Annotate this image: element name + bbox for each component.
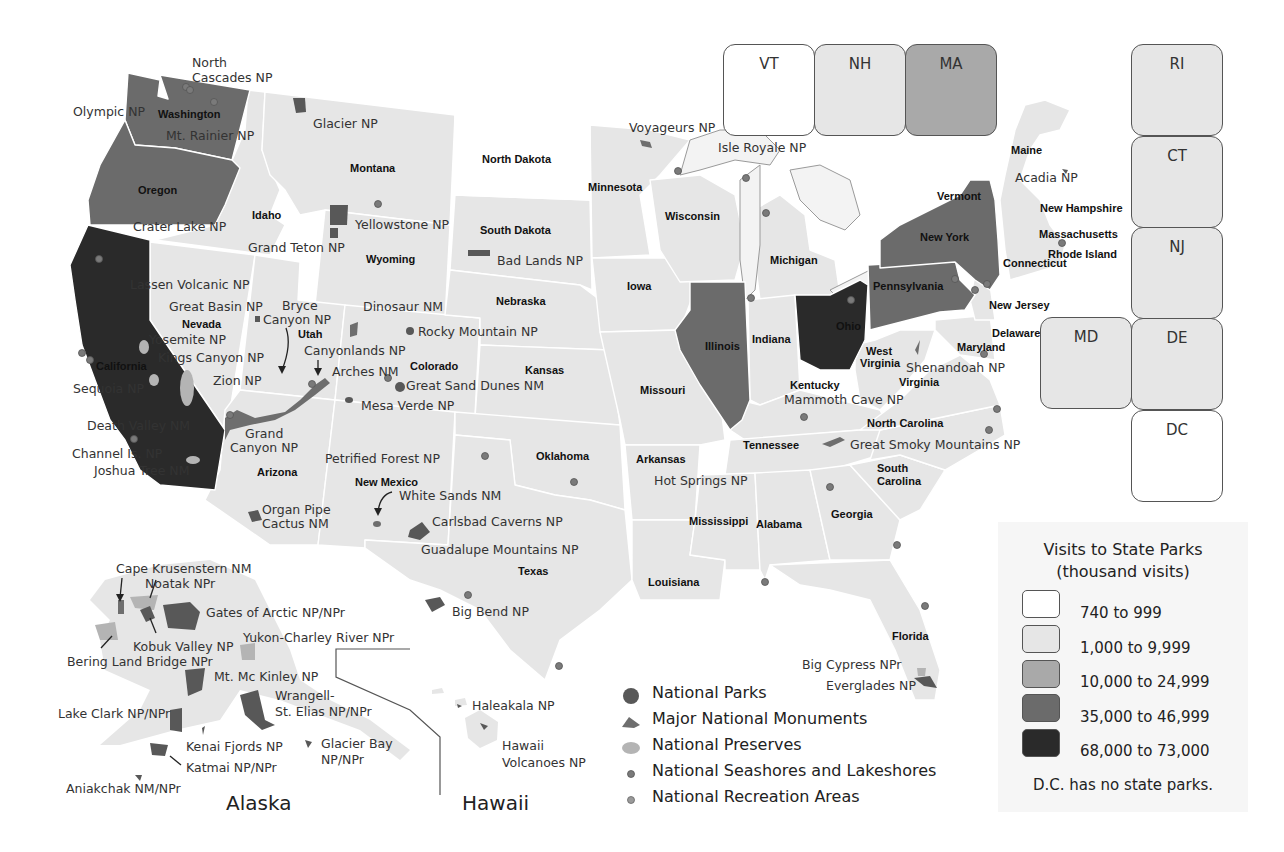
- park-label: Mesa Verde NP: [361, 398, 455, 413]
- state-label: Oklahoma: [536, 450, 590, 462]
- state-box-de: DE: [1131, 318, 1223, 410]
- park-label: Zion NP: [213, 373, 262, 388]
- legend-title: Visits to State Parks: [998, 540, 1248, 559]
- state-label: South: [877, 462, 908, 474]
- state-montana: [262, 92, 455, 225]
- state-label: Wisconsin: [665, 210, 720, 222]
- state-label: Indiana: [752, 333, 791, 345]
- state-label: North Carolina: [867, 417, 944, 429]
- park-label: Everglades NP: [826, 678, 916, 693]
- park-label: Canyonlands NP: [304, 343, 406, 358]
- park-label: White Sands NM: [399, 488, 501, 503]
- park-label: North: [192, 55, 227, 70]
- park-label: Sequoia NP: [73, 381, 145, 396]
- state-label: Pennsylvania: [873, 280, 944, 292]
- park-label: Death Valley NM: [87, 418, 190, 433]
- park-label: Lake Clark NP/NPr: [58, 706, 171, 721]
- feature-legend-label: National Parks: [652, 683, 767, 702]
- state-label: Colorado: [410, 360, 459, 372]
- park-label: Wrangell-: [275, 688, 335, 703]
- park-label: Shenandoah NP: [906, 360, 1006, 375]
- seashore-icon: [620, 765, 642, 783]
- legend-swatch-1: [1022, 625, 1060, 653]
- park-label: Channel Is. NP: [72, 446, 163, 461]
- state-label: Florida: [892, 630, 930, 642]
- state-label: Georgia: [831, 508, 873, 520]
- state-label: North Dakota: [482, 153, 552, 165]
- feature-legend-label: National Preserves: [652, 735, 802, 754]
- feature-legend-label: National Seashores and Lakeshores: [652, 761, 936, 780]
- state-box-ri: RI: [1131, 44, 1223, 136]
- park-label: Grand Teton NP: [248, 240, 345, 255]
- park-label: Voyageurs NP: [629, 120, 716, 135]
- park-label: Big Cypress NPr: [802, 657, 902, 672]
- legend-label: 10,000 to 24,999: [1080, 673, 1210, 691]
- state-box-nj: NJ: [1131, 227, 1223, 319]
- state-label: New York: [920, 231, 970, 243]
- state-label: Idaho: [252, 209, 282, 221]
- state-label: Virginia: [860, 357, 901, 369]
- region-label-hawaii: Hawaii: [462, 791, 529, 815]
- state-label: Kentucky: [790, 379, 840, 391]
- park-label: Aniakchak NM/NPr: [66, 781, 182, 796]
- park-label: Kings Canyon NP: [158, 350, 265, 365]
- park-label: Rocky Mountain NP: [418, 324, 538, 339]
- national-park-icon: [620, 687, 642, 705]
- state-label: Massachusetts: [1039, 228, 1118, 240]
- recreation-area-icon: [620, 791, 642, 809]
- park-label: Cape Krusenstern NM: [116, 561, 251, 576]
- state-label: Tennessee: [743, 439, 799, 451]
- state-label: Arkansas: [636, 453, 686, 465]
- park-label: Acadia NP: [1015, 170, 1078, 185]
- state-label: Minnesota: [588, 181, 643, 193]
- legend-label: 740 to 999: [1080, 604, 1162, 622]
- state-box-md: MD: [1040, 317, 1132, 409]
- park-label: Cascades NP: [192, 70, 273, 85]
- state-label: Missouri: [640, 384, 685, 396]
- state-box-nh: NH: [814, 44, 906, 136]
- state-label: Arizona: [257, 466, 298, 478]
- state-label: West: [866, 345, 892, 357]
- legend-swatch-3: [1022, 694, 1060, 722]
- park-label: Yosemite NP: [148, 332, 226, 347]
- state-label: Carolina: [877, 475, 922, 487]
- state-label: Texas: [518, 565, 548, 577]
- park-label: Grand: [245, 426, 283, 441]
- park-label: Yukon-Charley River NPr: [242, 630, 395, 645]
- park-label: Hot Springs NP: [654, 473, 748, 488]
- national-preserve-icon: [620, 739, 642, 757]
- park-label: Petrified Forest NP: [325, 451, 440, 466]
- park-label: Olympic NP: [73, 104, 145, 119]
- state-label: California: [96, 360, 148, 372]
- state-label: Louisiana: [648, 576, 700, 588]
- hawaii-islands: [432, 688, 498, 748]
- state-label: Maine: [1011, 144, 1042, 156]
- park-label: St. Elias NP/NPr: [275, 704, 373, 719]
- state-label: Wyoming: [366, 253, 415, 265]
- park-label: Dinosaur NM: [363, 299, 443, 314]
- legend-swatch-0: [1022, 590, 1060, 618]
- national-monument-icon: [620, 713, 642, 731]
- state-label: New Mexico: [355, 476, 418, 488]
- park-label: Yellowstone NP: [354, 217, 449, 232]
- park-label: Great Sand Dunes NM: [406, 378, 544, 393]
- state-label: Connecticut: [1003, 257, 1067, 269]
- state-label: Kansas: [525, 364, 564, 376]
- feature-legend-label: National Recreation Areas: [652, 787, 860, 806]
- park-label: Kenai Fjords NP: [186, 739, 283, 754]
- park-label: Katmai NP/NPr: [186, 760, 278, 775]
- region-label-alaska: Alaska: [226, 791, 291, 815]
- park-label: Arches NM: [332, 364, 399, 379]
- park-label: Great Basin NP: [169, 299, 263, 314]
- legend-label: 68,000 to 73,000: [1080, 742, 1210, 760]
- state-label: Iowa: [627, 280, 652, 292]
- state-box-ma: MA: [905, 44, 997, 136]
- park-label: Canyon NP: [263, 312, 332, 327]
- state-label: Washington: [158, 108, 221, 120]
- park-label: Crater Lake NP: [133, 219, 227, 234]
- park-label: Bad Lands NP: [497, 253, 583, 268]
- state-label: Utah: [298, 328, 323, 340]
- state-label: Virginia: [899, 376, 940, 388]
- park-label: Hawaii: [502, 738, 544, 753]
- park-label: Haleakala NP: [472, 698, 555, 713]
